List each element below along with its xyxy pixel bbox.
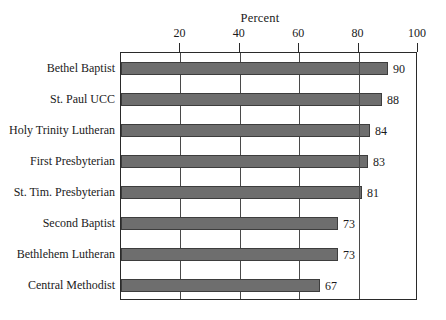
bar-chart: Percent 20406080100 Bethel BaptistSt. Pa…	[0, 0, 446, 320]
category-label: St. Paul UCC	[0, 92, 115, 106]
bar	[121, 93, 382, 106]
category-label: Bethlehem Lutheran	[0, 247, 115, 261]
x-tick-mark-60	[298, 43, 299, 52]
bar-value-label: 88	[387, 93, 399, 108]
category-label: Holy Trinity Lutheran	[0, 123, 115, 137]
gridline-80	[359, 53, 360, 299]
gridline-20	[180, 53, 181, 299]
x-tick-label-20: 20	[173, 26, 185, 41]
bar	[121, 186, 362, 199]
bar-value-label: 83	[373, 155, 385, 170]
bar	[121, 124, 370, 137]
bar-value-label: 67	[325, 279, 337, 294]
x-tick-label-100: 100	[408, 26, 426, 41]
bar	[121, 217, 338, 230]
bar	[121, 155, 368, 168]
bar-value-label: 90	[393, 62, 405, 77]
x-tick-mark-80	[358, 43, 359, 52]
bar	[121, 62, 388, 75]
category-label: Bethel Baptist	[0, 61, 115, 75]
category-label: St. Tim. Presbyterian	[0, 185, 115, 199]
bar	[121, 279, 320, 292]
x-tick-label-40: 40	[233, 26, 245, 41]
gridline-40	[240, 53, 241, 299]
x-tick-label-60: 60	[292, 26, 304, 41]
gridline-60	[299, 53, 300, 299]
chart-axis-title: Percent	[0, 11, 446, 26]
bar-value-label: 73	[343, 217, 355, 232]
x-tick-mark-20	[179, 43, 180, 52]
category-label: Central Methodist	[0, 278, 115, 292]
bar-value-label: 84	[375, 124, 387, 139]
plot-area: 9088848381737367	[120, 52, 417, 300]
axis-title-text: Percent	[241, 11, 280, 25]
x-tick-mark-100	[417, 43, 418, 52]
bar-value-label: 81	[367, 186, 379, 201]
x-tick-mark-40	[239, 43, 240, 52]
bar	[121, 248, 338, 261]
x-tick-label-80: 80	[352, 26, 364, 41]
category-label: Second Baptist	[0, 216, 115, 230]
category-label: First Presbyterian	[0, 154, 115, 168]
bar-value-label: 73	[343, 248, 355, 263]
